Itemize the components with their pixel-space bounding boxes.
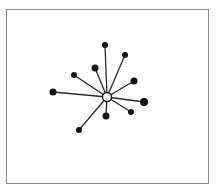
star-network-diagram xyxy=(0,0,220,194)
node-n-lower-right xyxy=(128,109,134,115)
edge-n-top-right xyxy=(107,55,125,97)
node-n-right xyxy=(140,98,148,106)
edge-n-top xyxy=(105,45,107,97)
node-n-top xyxy=(102,42,108,48)
node-n-lower-left xyxy=(76,127,82,133)
node-n-top-right xyxy=(122,52,128,58)
node-n-inner-upper xyxy=(92,65,99,72)
hub-group xyxy=(103,93,112,102)
edge-n-lower-left xyxy=(79,97,107,130)
nodes-group xyxy=(50,42,149,133)
hub-node xyxy=(103,93,112,102)
edges-group xyxy=(53,45,144,130)
node-n-left-upper xyxy=(71,72,77,78)
diagram-canvas xyxy=(0,0,220,194)
edge-n-left xyxy=(53,92,107,97)
node-n-bottom xyxy=(103,113,110,120)
edge-n-right xyxy=(107,97,144,102)
node-n-right-upper xyxy=(131,78,138,85)
node-n-left xyxy=(50,89,57,96)
